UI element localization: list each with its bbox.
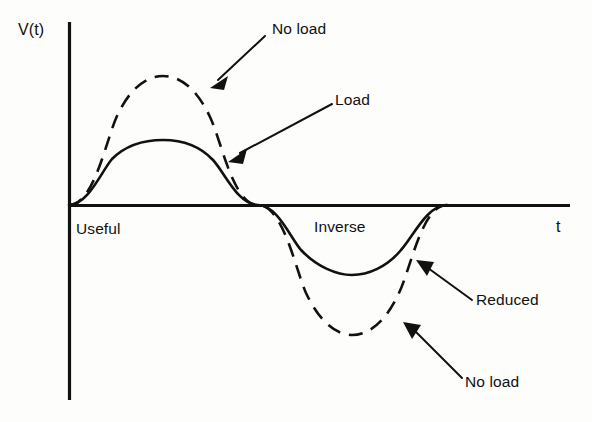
leader-line-reduced (428, 268, 472, 300)
arrow-head-no-load-bottom (403, 322, 421, 339)
annotation-label-reduced: Reduced (476, 292, 539, 308)
load-waveform (69, 140, 447, 275)
annotation-label-load: Load (335, 92, 370, 108)
region-label-inverse: Inverse (314, 219, 366, 235)
arrow-head-load (228, 149, 247, 164)
y-axis-label: V(t) (18, 22, 44, 38)
figure-canvas (0, 0, 592, 422)
region-label-useful: Useful (76, 221, 121, 237)
arrow-head-reduced (416, 260, 434, 276)
x-axis-label: t (556, 219, 561, 235)
leader-line-load (240, 104, 332, 153)
waveform-figure: V(t) t Useful Inverse No load Load Reduc… (0, 0, 592, 422)
annotation-label-no-load-bottom: No load (465, 374, 519, 390)
leader-line-no-load-top (218, 36, 265, 80)
annotation-label-no-load-top: No load (272, 21, 326, 37)
leader-line-no-load-bottom (416, 332, 462, 378)
